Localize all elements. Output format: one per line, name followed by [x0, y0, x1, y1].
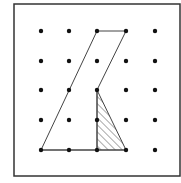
grid-dot [67, 29, 71, 33]
grid-dot [153, 88, 157, 92]
grid-dot [39, 59, 43, 63]
grid-dot [95, 29, 99, 33]
dot-grid-diagram [0, 0, 181, 183]
grid-dot [67, 88, 71, 92]
grid-dot [39, 148, 43, 152]
grid-dot [39, 118, 43, 122]
grid-dot [153, 148, 157, 152]
grid-dot [153, 118, 157, 122]
grid-dot [39, 88, 43, 92]
grid-dot [153, 29, 157, 33]
grid-dot [95, 148, 99, 152]
grid-dot [67, 59, 71, 63]
grid-dot [124, 148, 128, 152]
grid-dot [67, 148, 71, 152]
grid-dot [124, 88, 128, 92]
grid-dot [124, 29, 128, 33]
grid-dot [95, 118, 99, 122]
grid-dot [39, 29, 43, 33]
grid-dot [124, 118, 128, 122]
grid-dot [153, 59, 157, 63]
grid-dot [95, 88, 99, 92]
grid-dot [124, 59, 128, 63]
shaded-triangle [97, 90, 126, 150]
grid-dot [95, 59, 99, 63]
grid-dot [67, 118, 71, 122]
